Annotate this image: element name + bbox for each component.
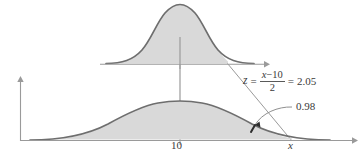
- equation-result: 2.05: [297, 76, 316, 87]
- mean-axis-label: 10: [171, 140, 182, 151]
- area-leader-line: [255, 107, 292, 125]
- bottom-axis-arrowhead: [352, 137, 358, 143]
- equation-variable: z: [243, 75, 247, 87]
- top-curve-shaded-area: [108, 5, 228, 64]
- equation-fraction: x−10 2: [260, 69, 285, 93]
- equation-denominator: 2: [268, 82, 277, 93]
- z-score-equation: z = x−10 2 = 2.05: [243, 69, 316, 93]
- equation-numerator: x−10: [260, 69, 285, 80]
- area-value-label: 0.98: [296, 101, 315, 112]
- x-axis-label: x: [288, 140, 293, 151]
- bottom-y-axis-arrowhead: [17, 76, 23, 82]
- equation-numerator-mean: 10: [272, 69, 283, 80]
- equation-second-equals-sign: =: [288, 76, 294, 87]
- equation-equals-sign: =: [250, 76, 256, 87]
- normal-curve-figure: z = x−10 2 = 2.05 0.98 10 x: [0, 0, 362, 157]
- top-axis-arrowhead: [264, 61, 270, 67]
